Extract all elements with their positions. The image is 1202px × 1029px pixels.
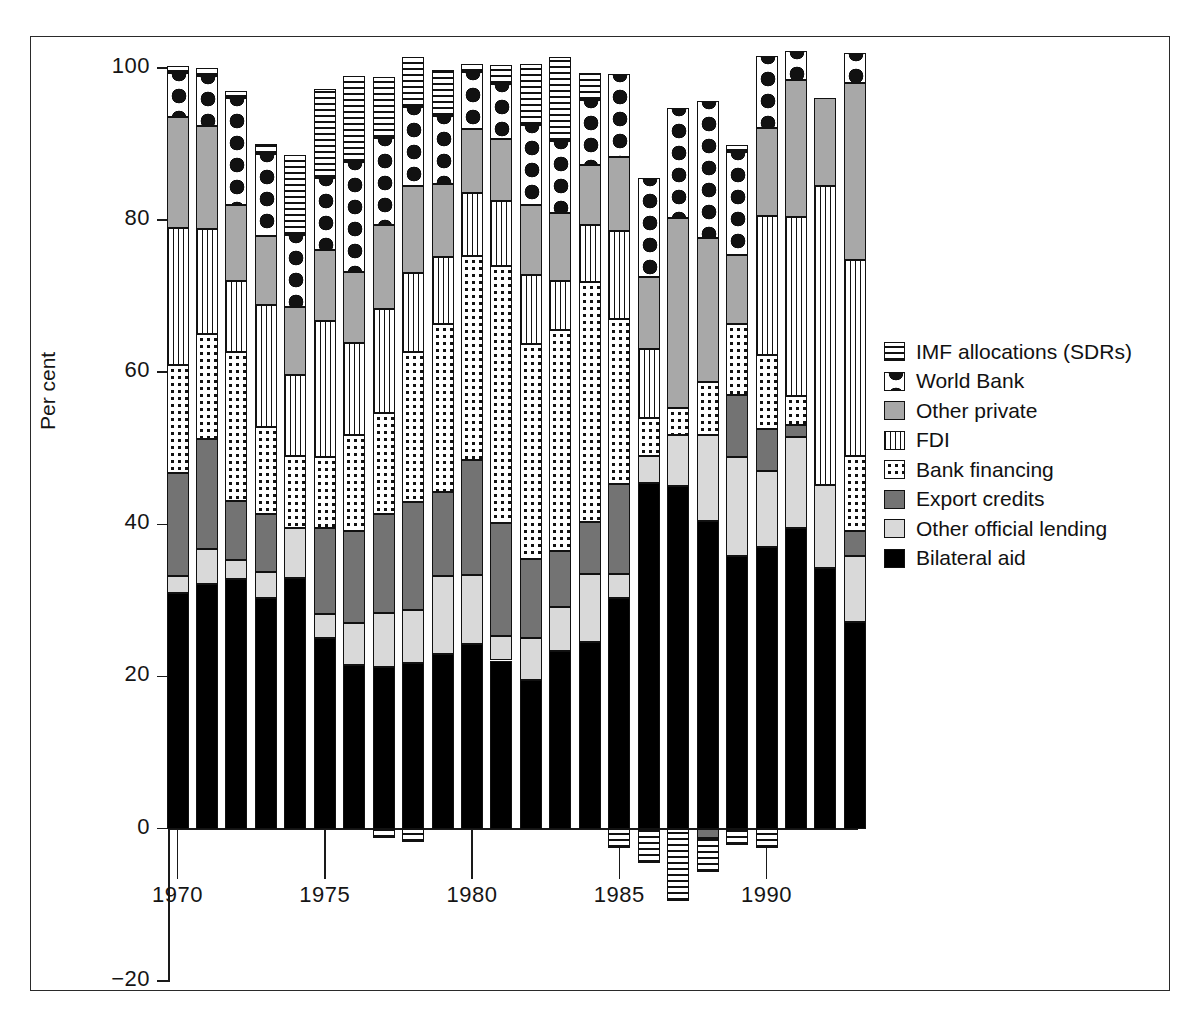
segment-neg-imf xyxy=(756,829,778,848)
legend-item-otherprivate[interactable]: Other private xyxy=(884,396,1174,426)
segment-otherofficial xyxy=(225,560,247,579)
segment-bilateral xyxy=(785,528,807,828)
segment-imf xyxy=(343,76,365,161)
bar-1980[interactable] xyxy=(461,0,483,1029)
segment-bilateral xyxy=(549,651,571,828)
bar-1991[interactable] xyxy=(785,0,807,1029)
segment-bank xyxy=(284,456,306,528)
segment-neg-imf xyxy=(373,829,395,838)
segment-bilateral xyxy=(167,593,189,829)
bar-1990[interactable] xyxy=(756,0,778,1029)
legend-item-otherofficial[interactable]: Other official lending xyxy=(884,514,1174,544)
segment-otherprivate xyxy=(284,307,306,375)
bar-1974[interactable] xyxy=(284,0,306,1029)
segment-bilateral xyxy=(608,598,630,828)
segment-export xyxy=(402,502,424,610)
segment-otherprivate xyxy=(167,117,189,228)
bar-1988[interactable] xyxy=(697,0,719,1029)
segment-bank xyxy=(608,319,630,484)
bar-1986[interactable] xyxy=(638,0,660,1029)
segment-bank xyxy=(225,352,247,501)
segment-otherofficial xyxy=(756,471,778,547)
bar-1987[interactable] xyxy=(667,0,689,1029)
y-tick-label: 40 xyxy=(125,509,150,535)
bar-1976[interactable] xyxy=(343,0,365,1029)
bar-1993[interactable] xyxy=(844,0,866,1029)
segment-otherprivate xyxy=(225,205,247,281)
bar-1992[interactable] xyxy=(814,0,836,1029)
bar-1985[interactable] xyxy=(608,0,630,1029)
bar-1972[interactable] xyxy=(225,0,247,1029)
segment-imf xyxy=(167,66,189,73)
segment-imf xyxy=(402,57,424,106)
segment-otherprivate xyxy=(520,205,542,275)
legend-item-bilateral[interactable]: Bilateral aid xyxy=(884,544,1174,574)
segment-fdi xyxy=(373,309,395,413)
segment-fdi xyxy=(844,260,866,455)
segment-worldbank xyxy=(520,125,542,205)
segment-otherprivate xyxy=(608,157,630,231)
bar-1981[interactable] xyxy=(490,0,512,1029)
segment-neg-imf xyxy=(697,838,719,872)
legend-item-export[interactable]: Export credits xyxy=(884,485,1174,515)
legend-item-bank[interactable]: Bank financing xyxy=(884,455,1174,485)
segment-bilateral xyxy=(756,547,778,828)
segment-bilateral xyxy=(373,667,395,828)
bar-1989[interactable] xyxy=(726,0,748,1029)
legend-swatch-bank-icon xyxy=(884,460,905,479)
segment-export xyxy=(785,425,807,436)
legend-label: Other private xyxy=(916,399,1037,423)
segment-neg-imf xyxy=(608,829,630,848)
bar-1979[interactable] xyxy=(432,0,454,1029)
legend-item-imf[interactable]: IMF allocations (SDRs) xyxy=(884,337,1174,367)
bar-1982[interactable] xyxy=(520,0,542,1029)
legend-swatch-worldbank-icon xyxy=(884,372,905,391)
segment-otherofficial xyxy=(343,623,365,665)
segment-fdi xyxy=(756,216,778,354)
segment-bilateral xyxy=(225,579,247,828)
bar-1984[interactable] xyxy=(579,0,601,1029)
segment-bilateral xyxy=(461,644,483,829)
segment-fdi xyxy=(432,257,454,324)
segment-bilateral xyxy=(432,654,454,829)
segment-otherprivate xyxy=(432,184,454,256)
segment-worldbank xyxy=(432,116,454,184)
segment-otherofficial xyxy=(785,437,807,528)
segment-bank xyxy=(726,324,748,395)
bar-1971[interactable] xyxy=(196,0,218,1029)
legend-swatch-otherofficial-icon xyxy=(884,519,905,538)
segment-neg-imf xyxy=(402,829,424,843)
segment-bilateral xyxy=(520,680,542,829)
legend-swatch-bilateral-icon xyxy=(884,549,905,568)
bar-1977[interactable] xyxy=(373,0,395,1029)
segment-bank xyxy=(667,408,689,435)
segment-bank xyxy=(373,413,395,513)
segment-imf xyxy=(579,73,601,100)
bar-1978[interactable] xyxy=(402,0,424,1029)
segment-worldbank xyxy=(608,74,630,157)
segment-export xyxy=(461,460,483,574)
bar-1975[interactable] xyxy=(314,0,336,1029)
segment-imf xyxy=(461,64,483,72)
segment-worldbank xyxy=(196,76,218,125)
y-axis-title: Per cent xyxy=(36,352,60,430)
segment-bilateral xyxy=(402,663,424,829)
legend-item-fdi[interactable]: FDI xyxy=(884,426,1174,456)
bar-1973[interactable] xyxy=(255,0,277,1029)
bar-1970[interactable] xyxy=(167,0,189,1029)
segment-worldbank xyxy=(844,53,866,83)
segment-fdi xyxy=(638,349,660,417)
bar-1983[interactable] xyxy=(549,0,571,1029)
segment-otherprivate xyxy=(196,126,218,229)
segment-bilateral xyxy=(255,598,277,828)
segment-bank xyxy=(343,435,365,531)
segment-otherofficial xyxy=(373,613,395,668)
segment-fdi xyxy=(284,375,306,456)
segment-worldbank xyxy=(785,51,807,80)
y-tick-label: 100 xyxy=(112,53,150,79)
segment-worldbank xyxy=(284,235,306,306)
segment-neg-imf xyxy=(667,829,689,901)
legend-item-worldbank[interactable]: World Bank xyxy=(884,367,1174,397)
segment-bank xyxy=(255,427,277,514)
segment-otherprivate xyxy=(549,213,571,281)
